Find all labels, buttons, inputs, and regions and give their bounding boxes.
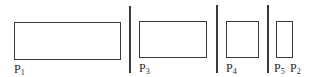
divider-line-2 (216, 5, 218, 73)
divider-line-1 (129, 6, 131, 73)
divider-line-3 (267, 5, 269, 73)
partition-box-p1 (14, 22, 121, 60)
label-p5: P5 (274, 62, 285, 76)
label-p4: P4 (226, 62, 237, 76)
label-p2: P2 (290, 62, 301, 76)
partition-box-p4 (226, 21, 259, 58)
partition-box-p2 (276, 21, 293, 58)
label-p1: P1 (14, 63, 25, 77)
label-p3: P3 (139, 62, 150, 76)
partition-box-p3 (139, 21, 207, 58)
